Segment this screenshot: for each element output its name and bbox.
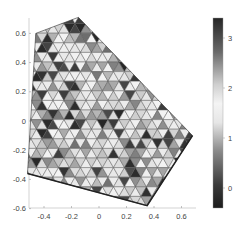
mesh-triangle [191,43,202,53]
mesh-triangle [136,62,147,72]
mesh-triangle [163,72,174,82]
mesh-triangle [202,148,213,158]
mesh-triangle [185,62,196,72]
mesh-triangle [185,158,196,168]
mesh-triangle [31,187,42,197]
mesh-triangle [147,43,158,53]
mesh-triangle [180,100,191,110]
mesh-triangle [196,110,207,120]
mesh-triangle [26,206,37,216]
mesh-triangle [20,216,31,226]
mesh-triangle [26,33,37,43]
mesh-triangle [235,52,246,62]
mesh-triangle [202,24,213,34]
mesh-triangle [158,196,169,206]
mesh-triangle [235,14,246,24]
mesh-triangle [26,187,37,197]
mesh-triangle [235,129,246,139]
mesh-triangle [246,110,247,120]
mesh-triangle [180,196,191,206]
mesh-triangle [108,33,119,43]
mesh-triangle [180,52,191,62]
mesh-triangle [218,216,229,226]
mesh-triangle [163,187,174,197]
mesh-triangle [185,43,196,53]
mesh-triangle [235,168,246,178]
mesh-triangle [196,177,207,187]
mesh-triangle [202,177,213,187]
mesh-triangle [202,43,213,53]
mesh-triangle [37,196,48,206]
x-tick-label: 0.4 [149,212,159,221]
mesh-triangle [174,52,185,62]
y-tick-label: 0.2 [16,87,26,96]
mesh-triangle [147,52,158,62]
mesh-triangle [169,91,180,101]
mesh-triangle [235,177,246,187]
mesh-triangle [196,33,207,43]
mesh-triangle [42,14,53,24]
mesh-triangle [97,14,108,24]
mesh-triangle [185,33,196,43]
mesh-triangle [163,81,174,91]
mesh-triangle [240,14,246,24]
mesh-triangle [185,110,196,120]
mesh-triangle [224,72,235,82]
mesh-triangle [185,72,196,82]
mesh-triangle [235,196,246,206]
mesh-triangle [48,196,59,206]
mesh-triangle [31,196,42,206]
mesh-triangle [246,216,247,226]
mesh-triangle [224,24,235,34]
mesh-triangle [37,187,48,197]
colorbar-ticks: 0123 [223,34,232,193]
mesh-triangle [191,216,202,226]
mesh-triangle [158,72,169,82]
mesh-triangle [196,62,207,72]
mesh-triangle [169,72,180,82]
mesh-triangle [141,14,152,24]
colorbar-tick-label: 1 [228,134,232,143]
mesh-triangle [246,196,247,206]
mesh-triangle [141,52,152,62]
y-ticks: -0.6-0.4-0.200.20.40.6 [13,29,31,213]
mesh-triangle [229,62,240,72]
mesh-triangle [130,33,141,43]
mesh-triangle [224,158,235,168]
mesh-triangle [202,196,213,206]
mesh-triangle [163,91,174,101]
mesh-triangle [136,24,147,34]
mesh-triangle [152,14,163,24]
mesh-triangle [240,43,246,53]
y-tick-label: -0.6 [13,204,26,213]
mesh-triangle [152,62,163,72]
mesh-triangle [81,196,92,206]
mesh-triangle [147,72,158,82]
mesh-triangle [163,206,174,216]
mesh-triangle [81,206,92,216]
mesh-triangle [246,148,247,158]
mesh-triangle [59,187,70,197]
mesh-triangle [191,81,202,91]
mesh-triangle [235,81,246,91]
mesh-triangle [235,100,246,110]
mesh-triangle [191,120,202,130]
mesh-triangle [246,91,247,101]
mesh-triangle [191,52,202,62]
mesh-triangle [9,129,20,139]
mesh-triangle [141,33,152,43]
mesh-triangle [235,206,246,216]
mesh-triangle [136,14,147,24]
mesh-triangle [196,72,207,82]
mesh-triangle [136,206,147,216]
x-tick-label: 0 [97,212,101,221]
mesh-triangle [224,62,235,72]
mesh-triangle [48,187,59,197]
mesh-triangle [147,14,158,24]
mesh-triangle [141,43,152,53]
mesh-triangle [224,206,235,216]
mesh-triangle [191,62,202,72]
mesh-triangle [174,177,185,187]
mesh-triangle [240,187,246,197]
mesh-triangle [202,216,213,226]
